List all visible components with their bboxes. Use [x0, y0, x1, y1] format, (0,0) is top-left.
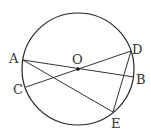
center-point	[76, 67, 80, 71]
label-b: B	[136, 72, 146, 87]
label-o: O	[72, 52, 83, 67]
label-d: D	[132, 42, 142, 57]
segment-ae	[23, 60, 113, 112]
circle-diagram: O A B C D E	[0, 0, 151, 133]
label-e: E	[111, 116, 121, 131]
label-a: A	[8, 51, 19, 66]
label-c: C	[13, 82, 23, 97]
